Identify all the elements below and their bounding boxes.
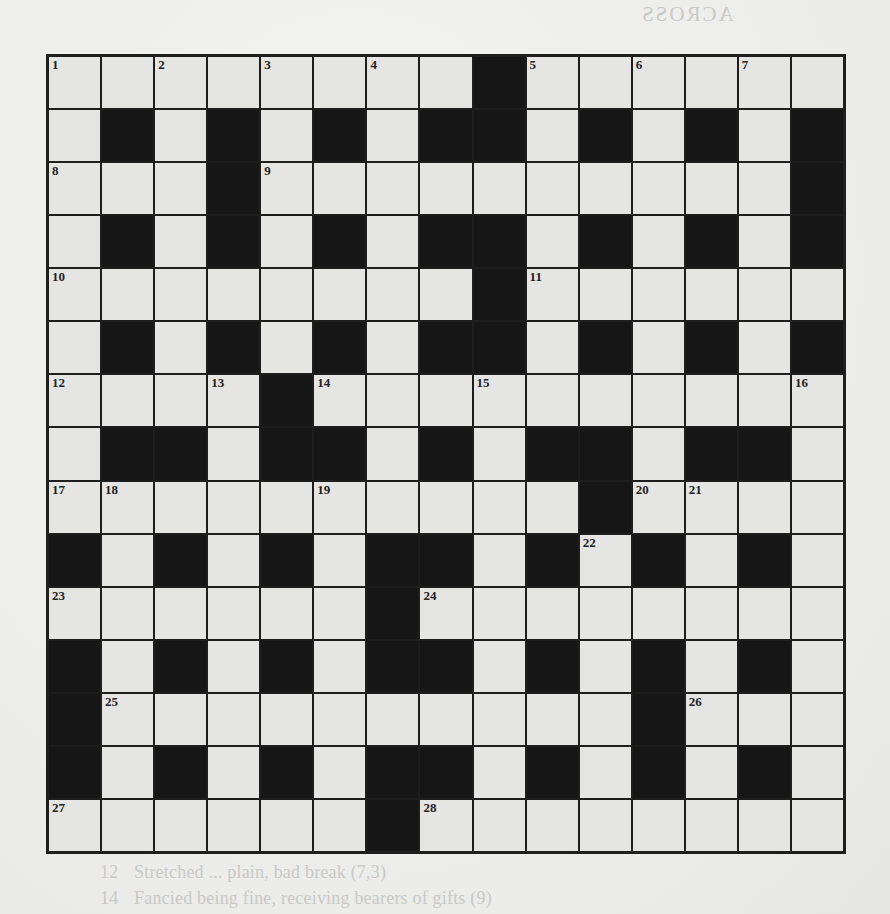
answer-cell[interactable] bbox=[208, 428, 259, 479]
answer-cell[interactable] bbox=[208, 269, 259, 320]
answer-cell[interactable]: 11 bbox=[527, 269, 578, 320]
answer-cell[interactable] bbox=[261, 482, 312, 533]
answer-cell[interactable] bbox=[155, 216, 206, 267]
answer-cell[interactable]: 16 bbox=[792, 375, 843, 426]
answer-cell[interactable] bbox=[208, 747, 259, 798]
answer-cell[interactable] bbox=[155, 375, 206, 426]
answer-cell[interactable] bbox=[367, 428, 418, 479]
answer-cell[interactable] bbox=[739, 482, 790, 533]
answer-cell[interactable] bbox=[208, 535, 259, 586]
answer-cell[interactable] bbox=[792, 747, 843, 798]
answer-cell[interactable] bbox=[314, 747, 365, 798]
answer-cell[interactable] bbox=[102, 800, 153, 851]
answer-cell[interactable] bbox=[314, 57, 365, 108]
answer-cell[interactable] bbox=[367, 322, 418, 373]
answer-cell[interactable] bbox=[367, 269, 418, 320]
answer-cell[interactable]: 4 bbox=[367, 57, 418, 108]
answer-cell[interactable] bbox=[527, 216, 578, 267]
answer-cell[interactable]: 8 bbox=[49, 163, 100, 214]
answer-cell[interactable] bbox=[580, 163, 631, 214]
answer-cell[interactable] bbox=[102, 57, 153, 108]
answer-cell[interactable] bbox=[792, 641, 843, 692]
answer-cell[interactable] bbox=[102, 163, 153, 214]
answer-cell[interactable] bbox=[420, 163, 471, 214]
answer-cell[interactable]: 25 bbox=[102, 694, 153, 745]
answer-cell[interactable] bbox=[686, 269, 737, 320]
answer-cell[interactable]: 6 bbox=[633, 57, 684, 108]
answer-cell[interactable] bbox=[739, 110, 790, 161]
answer-cell[interactable] bbox=[314, 269, 365, 320]
answer-cell[interactable] bbox=[261, 588, 312, 639]
answer-cell[interactable] bbox=[739, 694, 790, 745]
answer-cell[interactable] bbox=[49, 322, 100, 373]
answer-cell[interactable]: 12 bbox=[49, 375, 100, 426]
answer-cell[interactable] bbox=[792, 269, 843, 320]
answer-cell[interactable] bbox=[474, 588, 525, 639]
answer-cell[interactable]: 20 bbox=[633, 482, 684, 533]
answer-cell[interactable] bbox=[367, 694, 418, 745]
answer-cell[interactable] bbox=[474, 482, 525, 533]
answer-cell[interactable] bbox=[208, 57, 259, 108]
answer-cell[interactable] bbox=[420, 57, 471, 108]
answer-cell[interactable]: 5 bbox=[527, 57, 578, 108]
answer-cell[interactable] bbox=[686, 375, 737, 426]
answer-cell[interactable] bbox=[686, 163, 737, 214]
answer-cell[interactable] bbox=[633, 588, 684, 639]
answer-cell[interactable] bbox=[527, 800, 578, 851]
answer-cell[interactable] bbox=[739, 322, 790, 373]
answer-cell[interactable] bbox=[633, 269, 684, 320]
answer-cell[interactable] bbox=[686, 641, 737, 692]
answer-cell[interactable] bbox=[155, 269, 206, 320]
answer-cell[interactable] bbox=[580, 641, 631, 692]
answer-cell[interactable]: 24 bbox=[420, 588, 471, 639]
answer-cell[interactable] bbox=[792, 800, 843, 851]
answer-cell[interactable] bbox=[686, 57, 737, 108]
answer-cell[interactable] bbox=[367, 110, 418, 161]
answer-cell[interactable] bbox=[102, 535, 153, 586]
answer-cell[interactable] bbox=[580, 269, 631, 320]
answer-cell[interactable] bbox=[474, 163, 525, 214]
answer-cell[interactable]: 26 bbox=[686, 694, 737, 745]
answer-cell[interactable] bbox=[527, 588, 578, 639]
answer-cell[interactable] bbox=[474, 641, 525, 692]
answer-cell[interactable] bbox=[633, 428, 684, 479]
answer-cell[interactable] bbox=[420, 694, 471, 745]
answer-cell[interactable] bbox=[102, 588, 153, 639]
answer-cell[interactable] bbox=[527, 375, 578, 426]
answer-cell[interactable] bbox=[633, 110, 684, 161]
answer-cell[interactable] bbox=[792, 482, 843, 533]
answer-cell[interactable]: 19 bbox=[314, 482, 365, 533]
answer-cell[interactable] bbox=[527, 110, 578, 161]
answer-cell[interactable]: 7 bbox=[739, 57, 790, 108]
answer-cell[interactable] bbox=[208, 800, 259, 851]
answer-cell[interactable] bbox=[102, 641, 153, 692]
answer-cell[interactable] bbox=[739, 375, 790, 426]
answer-cell[interactable] bbox=[261, 110, 312, 161]
answer-cell[interactable] bbox=[420, 269, 471, 320]
answer-cell[interactable] bbox=[633, 216, 684, 267]
answer-cell[interactable] bbox=[155, 322, 206, 373]
answer-cell[interactable] bbox=[792, 588, 843, 639]
answer-cell[interactable] bbox=[474, 428, 525, 479]
answer-cell[interactable] bbox=[155, 163, 206, 214]
answer-cell[interactable]: 27 bbox=[49, 800, 100, 851]
answer-cell[interactable]: 2 bbox=[155, 57, 206, 108]
answer-cell[interactable] bbox=[633, 800, 684, 851]
answer-cell[interactable] bbox=[633, 375, 684, 426]
answer-cell[interactable] bbox=[314, 535, 365, 586]
answer-cell[interactable] bbox=[739, 800, 790, 851]
answer-cell[interactable] bbox=[633, 322, 684, 373]
answer-cell[interactable] bbox=[261, 322, 312, 373]
answer-cell[interactable] bbox=[261, 269, 312, 320]
answer-cell[interactable] bbox=[261, 800, 312, 851]
answer-cell[interactable] bbox=[739, 269, 790, 320]
answer-cell[interactable] bbox=[367, 482, 418, 533]
answer-cell[interactable]: 17 bbox=[49, 482, 100, 533]
answer-cell[interactable] bbox=[686, 747, 737, 798]
answer-cell[interactable] bbox=[155, 588, 206, 639]
answer-cell[interactable] bbox=[367, 375, 418, 426]
answer-cell[interactable] bbox=[155, 800, 206, 851]
answer-cell[interactable] bbox=[792, 57, 843, 108]
answer-cell[interactable] bbox=[686, 588, 737, 639]
answer-cell[interactable] bbox=[314, 694, 365, 745]
